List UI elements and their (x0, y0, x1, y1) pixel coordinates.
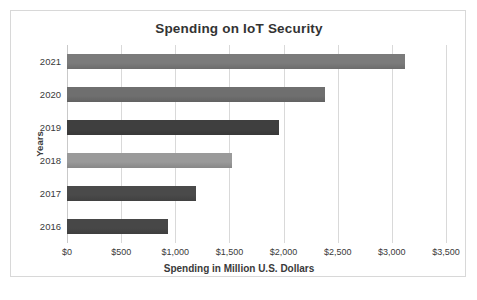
x-axis-tick-label-0: $0 (62, 247, 72, 257)
x-axis-tick-label-3000: $3,000 (378, 247, 406, 257)
y-axis-tick-label-2018: 2018 (40, 144, 61, 177)
bar-row: 2019 (67, 111, 279, 144)
x-axis-tick-label-500: $500 (111, 247, 131, 257)
y-axis-tick-label-2016: 2016 (40, 210, 61, 243)
bar-2020[interactable] (67, 87, 325, 102)
y-axis-tick-label-2019: 2019 (40, 111, 61, 144)
chart-title: Spending on IoT Security (11, 21, 467, 36)
x-axis-tick-label-3500: $3,500 (432, 247, 460, 257)
bar-row: 2020 (67, 78, 325, 111)
x-axis-tick-labels: $0$500$1,000$1,500$2,000$2,500$3,000$3,5… (67, 247, 446, 263)
bar-2021[interactable] (67, 54, 405, 69)
bar-row: 2017 (67, 177, 196, 210)
x-axis-tick-label-2500: $2,500 (324, 247, 352, 257)
x-axis-tick-label-2000: $2,000 (270, 247, 298, 257)
bar-row: 2021 (67, 45, 405, 78)
plot-area: 202120202019201820172016 (67, 45, 446, 243)
chart-frame: Spending on IoT Security Years 202120202… (10, 10, 466, 277)
x-axis-tick-label-1500: $1,500 (216, 247, 244, 257)
bar-2019[interactable] (67, 120, 279, 135)
bar-row: 2018 (67, 144, 232, 177)
bar-row: 2016 (67, 210, 168, 243)
bar-2017[interactable] (67, 186, 196, 201)
y-axis-tick-label-2017: 2017 (40, 177, 61, 210)
bar-2016[interactable] (67, 219, 168, 234)
y-axis-tick-label-2021: 2021 (40, 45, 61, 78)
y-axis-tick-label-2020: 2020 (40, 78, 61, 111)
gridline-3500 (446, 45, 447, 243)
x-axis-tick-label-1000: $1,000 (162, 247, 190, 257)
bar-2018[interactable] (67, 153, 232, 168)
x-axis-title: Spending in Million U.S. Dollars (11, 263, 467, 274)
